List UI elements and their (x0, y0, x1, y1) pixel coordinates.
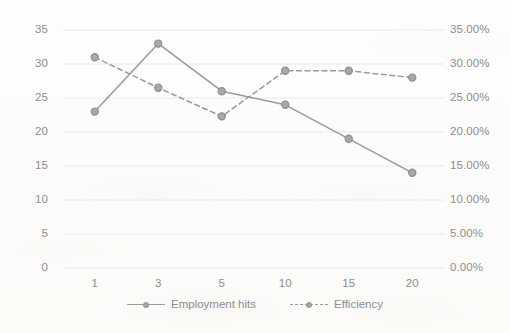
data-point-marker (345, 67, 352, 74)
y-left-tick-label: 30 (35, 58, 48, 70)
x-tick-label: 10 (255, 278, 315, 290)
y-right-tick-label: 30.00% (450, 58, 490, 70)
data-point-marker (345, 135, 352, 142)
legend-dashed-line-marker-icon (290, 299, 328, 310)
data-point-marker (282, 101, 289, 108)
line-chart: 05101520253035 0.00%5.00%10.00%15.00%20.… (0, 0, 510, 333)
legend-solid-line-marker-icon (127, 299, 165, 310)
legend-item-efficiency[interactable]: Efficiency (290, 299, 383, 311)
series-employment-hits (91, 40, 416, 176)
data-point-marker (155, 84, 162, 91)
y-left-tick-label: 5 (42, 228, 49, 240)
y-right-tick-label: 0.00% (450, 262, 483, 274)
data-point-marker (218, 88, 225, 95)
legend-item-employment-hits[interactable]: Employment hits (127, 299, 256, 311)
y-right-tick-label: 35.00% (450, 24, 490, 36)
series-line (95, 44, 413, 173)
y-left-tick-label: 20 (35, 126, 48, 138)
data-point-marker (409, 169, 416, 176)
y-left-tick-label: 25 (35, 92, 48, 104)
x-tick-label: 20 (382, 278, 442, 290)
data-point-marker (91, 108, 98, 115)
y-right-tick-label: 5.00% (450, 228, 483, 240)
x-tick-label: 5 (192, 278, 252, 290)
data-point-marker (282, 67, 289, 74)
data-point-marker (409, 74, 416, 81)
chart-legend: Employment hits Efficiency (0, 299, 510, 311)
x-tick-label: 3 (128, 278, 188, 290)
data-point-marker (91, 54, 98, 61)
y-left-tick-label: 15 (35, 160, 48, 172)
y-left-tick-label: 10 (35, 194, 48, 206)
y-right-tick-label: 20.00% (450, 126, 490, 138)
data-point-marker (218, 113, 225, 120)
legend-label-efficiency: Efficiency (334, 299, 383, 311)
series-line (95, 57, 413, 116)
y-right-tick-label: 25.00% (450, 92, 490, 104)
legend-label-employment-hits: Employment hits (171, 299, 256, 311)
data-point-marker (155, 40, 162, 47)
x-tick-label: 1 (65, 278, 125, 290)
x-tick-label: 15 (319, 278, 379, 290)
y-right-tick-label: 15.00% (450, 160, 490, 172)
y-right-tick-label: 10.00% (450, 194, 490, 206)
y-left-tick-label: 0 (42, 262, 49, 274)
y-left-tick-label: 35 (35, 24, 48, 36)
